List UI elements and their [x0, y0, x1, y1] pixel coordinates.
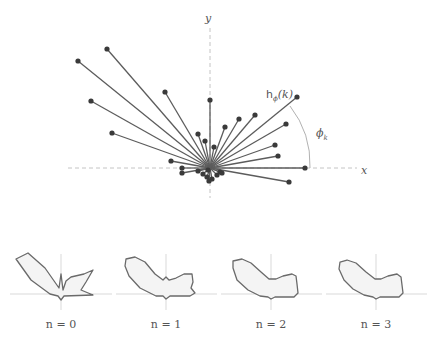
- y-axis-label: y: [204, 12, 212, 25]
- data-point: [162, 89, 167, 94]
- data-point: [104, 46, 109, 51]
- polar-shape: [16, 253, 93, 300]
- impulse-response-points: [75, 46, 307, 184]
- data-point: [283, 121, 288, 126]
- data-point: [75, 58, 80, 63]
- ray: [165, 92, 210, 168]
- polar-shape: [233, 259, 298, 299]
- x-axis-label: x: [361, 164, 368, 177]
- polar-shape: [125, 257, 195, 299]
- data-point: [202, 138, 207, 143]
- subplot-n2: n = 2: [221, 254, 322, 331]
- data-point: [294, 94, 299, 99]
- data-point: [205, 167, 210, 172]
- data-point: [195, 168, 200, 173]
- data-point: [275, 153, 280, 158]
- data-point: [179, 165, 184, 170]
- data-point: [109, 130, 114, 135]
- ray: [91, 101, 210, 168]
- data-point: [222, 124, 227, 129]
- subplot-label: n = 3: [361, 318, 391, 331]
- subplot-label: n = 0: [46, 318, 76, 331]
- subplot-n0: n = 0: [10, 253, 112, 331]
- data-point: [209, 176, 214, 181]
- impulse-response-rays: [78, 49, 305, 182]
- data-point: [195, 131, 200, 136]
- data-point: [211, 144, 216, 149]
- data-point: [252, 112, 257, 117]
- data-point: [286, 179, 291, 184]
- data-point: [302, 165, 307, 170]
- figure: x y hϕ(k) ϕk n = 0 n = 1 n = 2 n = 3: [0, 0, 440, 345]
- data-point: [207, 97, 212, 102]
- subplot-label: n = 2: [256, 318, 286, 331]
- data-point: [88, 98, 93, 103]
- h-phi-k-label: hϕ(k): [266, 88, 293, 103]
- subplot-label: n = 1: [151, 318, 181, 331]
- data-point: [219, 170, 224, 175]
- subplot-n1: n = 1: [116, 254, 217, 331]
- phi-k-label: ϕk: [316, 127, 328, 142]
- data-point: [272, 142, 277, 147]
- data-point: [168, 158, 173, 163]
- angle-arc: [290, 106, 310, 168]
- subplot-n3: n = 3: [326, 254, 427, 331]
- polar-shape: [339, 260, 403, 299]
- data-point: [236, 116, 241, 121]
- data-point: [179, 170, 184, 175]
- ray: [78, 61, 210, 168]
